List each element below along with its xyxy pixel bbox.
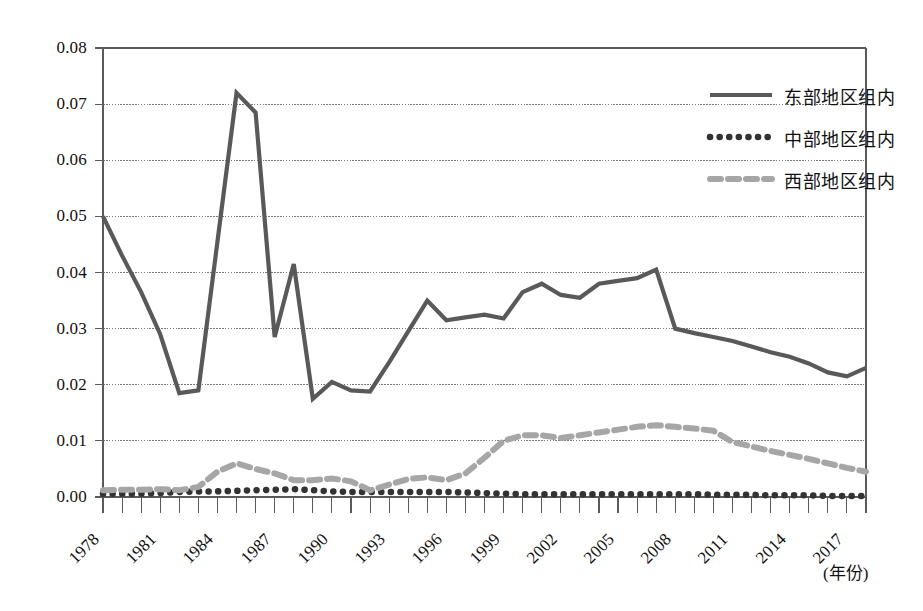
series-line-1: [103, 489, 866, 496]
line-chart: 0.000.010.020.030.040.050.060.070.08 197…: [0, 0, 923, 611]
legend-swatches: [710, 95, 772, 179]
gridlines: [103, 48, 866, 497]
y-axis-tick-label: 0.08: [17, 39, 87, 56]
series-line-2: [103, 425, 866, 490]
y-axis-tick-label: 0.02: [17, 376, 87, 393]
y-axis-tick-label: 0.06: [17, 151, 87, 168]
y-axis-tick-label: 0.00: [17, 488, 87, 505]
x-axis-ticks: [103, 497, 866, 513]
series-line-0: [103, 93, 866, 399]
plot-frame: [103, 48, 866, 513]
y-axis-tick-label: 0.04: [17, 264, 87, 281]
y-axis-tick-label: 0.07: [17, 95, 87, 112]
x-axis-unit-label: (年份): [823, 559, 868, 584]
legend-label-2: 西部地区组内: [784, 167, 895, 193]
y-axis-tick-label: 0.01: [17, 432, 87, 449]
y-axis-ticks: [95, 48, 103, 497]
data-series: [103, 93, 866, 496]
y-axis-tick-label: 0.03: [17, 320, 87, 337]
legend-label-0: 东部地区组内: [784, 83, 895, 109]
legend-label-1: 中部地区组内: [784, 125, 895, 151]
y-axis-tick-label: 0.05: [17, 207, 87, 224]
